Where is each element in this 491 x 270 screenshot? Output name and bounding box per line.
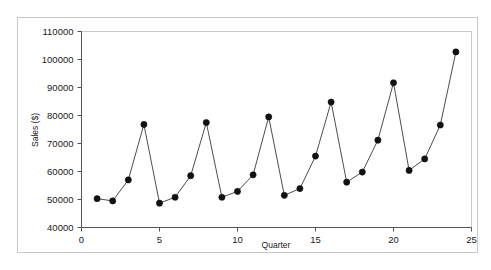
data-point (312, 153, 318, 159)
data-point (156, 200, 162, 206)
data-point (328, 99, 334, 105)
x-tick-label: 25 (466, 234, 477, 245)
y-tick-label: 50000 (47, 194, 73, 205)
x-tick-label: 10 (232, 234, 243, 245)
plot-area-border (82, 32, 472, 228)
data-point (390, 80, 396, 86)
x-tick-label: 15 (310, 234, 321, 245)
data-point (141, 121, 147, 127)
y-tick-label: 100000 (42, 54, 74, 65)
data-point (344, 179, 350, 185)
x-tick-label: 5 (157, 234, 162, 245)
sales-series-markers (94, 49, 459, 206)
data-point (203, 119, 209, 125)
y-axis-title: Sales ($) (30, 113, 40, 147)
x-tick-label: 20 (388, 234, 399, 245)
y-tick-label: 40000 (47, 222, 73, 233)
data-point (453, 49, 459, 55)
data-point (125, 177, 131, 183)
data-point (297, 185, 303, 191)
data-point (172, 194, 178, 200)
data-point (437, 122, 443, 128)
data-point (219, 194, 225, 200)
x-axis-title: Quarter (262, 240, 291, 250)
sales-series-line (97, 52, 456, 203)
y-tick-label: 110000 (43, 26, 74, 37)
x-tick-label: 0 (79, 234, 84, 245)
data-point (375, 137, 381, 143)
y-tick-label: 70000 (47, 138, 73, 149)
data-point (406, 167, 412, 173)
data-point (359, 169, 365, 175)
y-tick-label: 80000 (47, 110, 73, 121)
y-tick-label: 60000 (47, 166, 73, 177)
data-point (234, 188, 240, 194)
data-point (110, 198, 116, 204)
data-point (422, 156, 428, 162)
data-point (266, 114, 272, 120)
chart-screenshot: 4000050000600007000080000900001000001100… (0, 0, 491, 270)
data-point (281, 192, 287, 198)
data-point (188, 173, 194, 179)
data-point (250, 172, 256, 178)
y-axis-ticks (78, 32, 82, 228)
y-axis-tick-labels: 4000050000600007000080000900001000001100… (42, 26, 74, 233)
data-point (94, 196, 100, 202)
x-axis-ticks (82, 228, 472, 232)
sales-line-chart: 4000050000600007000080000900001000001100… (0, 0, 491, 270)
y-tick-label: 90000 (47, 82, 73, 93)
